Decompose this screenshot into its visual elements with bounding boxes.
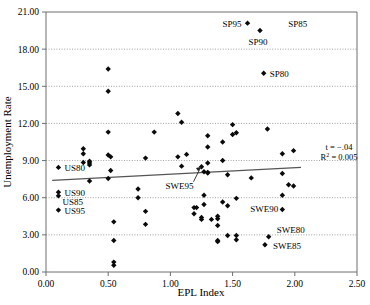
r-squared-value: = 0.005 (329, 152, 357, 162)
point-label-swe85: SWE85 (273, 241, 301, 251)
point-label-us95: US95 (64, 206, 85, 216)
y-tick-label-12: 12.00 (18, 119, 40, 129)
x-tick-label-1.5: 1.50 (224, 279, 241, 289)
point-label-swe80: SWE80 (277, 225, 305, 235)
x-tick-label-0: 0.00 (38, 279, 55, 289)
y-tick-label-3: 3.00 (22, 230, 39, 240)
scatter-chart-figure: 0.003.006.009.0012.0015.0018.0021.00 0.0… (0, 0, 370, 305)
r-squared-label: R2 = 0.005 (321, 152, 358, 162)
y-tick-label-15: 15.00 (18, 82, 40, 92)
y-tick-label-6: 6.00 (22, 193, 39, 203)
t-statistic-label: t = −.04 (326, 142, 354, 152)
point-label-sp90: SP90 (248, 37, 268, 47)
y-axis-title: Unemployment Rate (1, 96, 13, 187)
point-label-swe95: SWE95 (166, 181, 194, 191)
x-tick-label-1: 1.00 (162, 279, 179, 289)
scatter-plot-svg: 0.003.006.009.0012.0015.0018.0021.00 0.0… (0, 0, 370, 305)
y-tick-label-18: 18.00 (18, 45, 40, 55)
point-label-sp95: SP95 (223, 19, 243, 29)
point-label-sp85: SP85 (288, 19, 308, 29)
x-tick-label-2: 2.00 (286, 279, 303, 289)
y-tick-label-21: 21.00 (18, 7, 40, 17)
x-tick-label-2.5: 2.50 (349, 279, 366, 289)
chart-background (0, 0, 370, 305)
x-tick-label-0.5: 0.50 (100, 279, 117, 289)
point-label-us80: US80 (64, 163, 85, 173)
y-tick-label-0: 0.00 (22, 267, 39, 277)
y-tick-label-9: 9.00 (22, 156, 39, 166)
x-axis-title: EPL Index (178, 286, 225, 298)
point-label-sp80: SP80 (270, 69, 290, 79)
point-label-swe90: SWE90 (250, 204, 278, 214)
